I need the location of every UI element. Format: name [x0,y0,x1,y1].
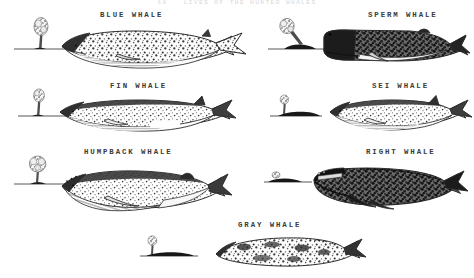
whale-illustration-sei-whale [324,94,470,142]
whale-illustration-sperm-whale [314,26,472,78]
entry-fin-whale: FIN WHALE [0,80,256,146]
entry-sperm-whale: SPERM WHALE [258,8,474,80]
whale-illustration-blue-whale [56,26,256,82]
species-label-fin-whale: FIN WHALE [110,82,167,91]
page-header-title: LIVES OF THE HUNTED WHALES [184,0,317,6]
species-label-right-whale: RIGHT WHALE [366,148,436,157]
whale-illustration-gray-whale [210,232,362,274]
page-header: 18LIVES OF THE HUNTED WHALES [0,0,474,6]
entry-blue-whale: BLUE WHALE [0,8,256,80]
page-folio: 18 [157,0,167,6]
species-label-sei-whale: SEI WHALE [372,82,429,91]
entry-humpback-whale: HUMPBACK WHALE [0,146,256,218]
species-label-gray-whale: GRAY WHALE [238,221,301,230]
entry-sei-whale: SEI WHALE [258,80,474,146]
whale-illustration-humpback-whale [52,166,238,222]
whale-illustration-right-whale [302,164,474,218]
blow-diagram-sei-whale [270,90,326,124]
blow-diagram-gray-whale [140,230,202,264]
species-label-humpback-whale: HUMPBACK WHALE [84,148,173,157]
species-label-sperm-whale: SPERM WHALE [368,11,438,20]
entry-right-whale: RIGHT WHALE [258,146,474,218]
whale-identification-plate: 18LIVES OF THE HUNTED WHALES [0,0,474,278]
whale-illustration-fin-whale [56,94,248,144]
species-label-blue-whale: BLUE WHALE [100,11,163,20]
entry-gray-whale: GRAY WHALE [110,218,364,278]
